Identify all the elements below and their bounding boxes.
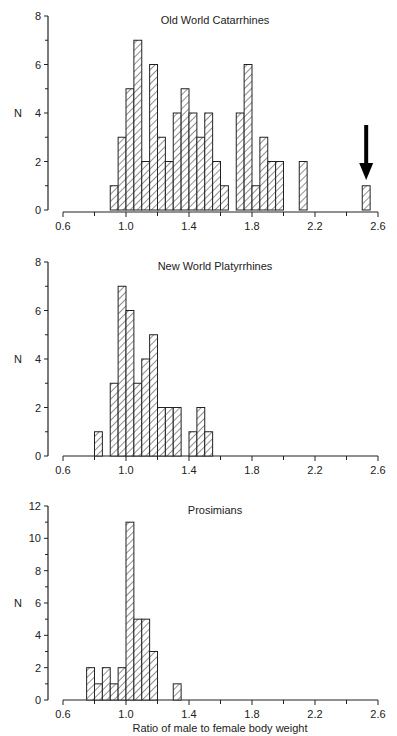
histogram-bar xyxy=(110,186,118,210)
histogram-bar xyxy=(110,684,118,700)
histogram-bar xyxy=(134,619,142,700)
histogram-bar xyxy=(158,137,166,210)
histogram-bar xyxy=(165,162,173,211)
y-tick-label: 4 xyxy=(35,107,41,119)
histogram-bar xyxy=(150,335,158,456)
histogram-bar xyxy=(197,137,205,210)
histogram-bar xyxy=(126,522,134,700)
histogram-bar xyxy=(205,432,213,456)
y-tick-label: 0 xyxy=(35,450,41,462)
x-tick-label: 1.0 xyxy=(118,708,133,720)
y-tick-label: 2 xyxy=(35,402,41,414)
histogram-panel: 02468N0.61.01.41.82.22.6New World Platyr… xyxy=(14,256,386,476)
histogram-bar xyxy=(150,65,158,211)
histogram-bar xyxy=(95,432,103,456)
x-tick-label: 0.6 xyxy=(55,464,70,476)
y-axis-label: N xyxy=(14,597,22,609)
y-axis-label: N xyxy=(14,107,22,119)
panel-title: Prosimians xyxy=(188,504,243,516)
y-tick-label: 0 xyxy=(35,694,41,706)
x-tick-label: 1.0 xyxy=(118,464,133,476)
y-tick-label: 0 xyxy=(35,204,41,216)
y-tick-label: 4 xyxy=(35,629,41,641)
histogram-bar xyxy=(236,113,244,210)
y-axis-label: N xyxy=(14,353,22,365)
x-tick-label: 1.4 xyxy=(181,464,196,476)
histogram-bar xyxy=(165,408,173,457)
histogram-bar xyxy=(299,162,307,211)
y-tick-label: 4 xyxy=(35,353,41,365)
histogram-bar xyxy=(268,162,276,211)
panel-title: Old World Catarrhines xyxy=(161,14,270,26)
histogram-bar xyxy=(197,408,205,457)
histogram-bar xyxy=(260,137,268,210)
histogram-bar xyxy=(118,668,126,700)
histogram-bar xyxy=(189,113,197,210)
x-tick-label: 1.4 xyxy=(181,220,196,232)
histogram-bar xyxy=(126,89,134,210)
y-tick-label: 2 xyxy=(35,662,41,674)
histogram-bar xyxy=(118,286,126,456)
x-tick-label: 1.8 xyxy=(244,464,259,476)
histogram-bar xyxy=(102,668,110,700)
x-axis-label: Ratio of male to female body weight xyxy=(133,722,308,734)
histogram-bar xyxy=(118,137,126,210)
arrow-head-icon xyxy=(359,163,373,180)
y-tick-label: 8 xyxy=(35,256,41,268)
histogram-bar xyxy=(189,432,197,456)
y-tick-label: 6 xyxy=(35,59,41,71)
histogram-bar xyxy=(126,311,134,457)
x-tick-label: 1.4 xyxy=(181,708,196,720)
histogram-figure: 02468N0.61.01.41.82.22.6Old World Catarr… xyxy=(0,0,397,736)
histogram-panel: 02468N0.61.01.41.82.22.6Old World Catarr… xyxy=(14,10,386,232)
histogram-bar xyxy=(213,162,221,211)
x-tick-label: 1.0 xyxy=(118,220,133,232)
y-tick-label: 6 xyxy=(35,305,41,317)
y-tick-label: 12 xyxy=(29,500,41,512)
histogram-bar xyxy=(173,113,181,210)
x-tick-label: 2.2 xyxy=(307,708,322,720)
x-tick-label: 2.6 xyxy=(370,708,385,720)
histogram-bar xyxy=(134,40,142,210)
histogram-bar xyxy=(134,383,142,456)
histogram-bar xyxy=(142,162,150,211)
histogram-bar xyxy=(142,619,150,700)
histogram-bar xyxy=(221,186,229,210)
x-tick-label: 2.2 xyxy=(307,464,322,476)
histogram-panel: 024681012N0.61.01.41.82.22.6ProsimiansRa… xyxy=(14,500,386,734)
y-tick-label: 6 xyxy=(35,597,41,609)
histogram-bar xyxy=(244,65,252,211)
histogram-bar xyxy=(142,359,150,456)
x-tick-label: 1.8 xyxy=(244,220,259,232)
x-tick-label: 1.8 xyxy=(244,708,259,720)
histogram-bar xyxy=(87,668,95,700)
histogram-bar xyxy=(173,408,181,457)
x-tick-label: 2.6 xyxy=(370,464,385,476)
histogram-bar xyxy=(276,162,284,211)
histogram-bar xyxy=(205,113,213,210)
histogram-bar xyxy=(173,684,181,700)
x-tick-label: 2.6 xyxy=(370,220,385,232)
y-tick-label: 8 xyxy=(35,10,41,22)
histogram-bar xyxy=(95,684,103,700)
y-tick-label: 10 xyxy=(29,532,41,544)
panel-title: New World Platyrrhines xyxy=(158,260,273,272)
y-tick-label: 8 xyxy=(35,565,41,577)
x-tick-label: 0.6 xyxy=(55,708,70,720)
histogram-bar xyxy=(158,408,166,457)
histogram-bar xyxy=(252,186,260,210)
y-tick-label: 2 xyxy=(35,156,41,168)
histogram-bar xyxy=(110,383,118,456)
histogram-bar xyxy=(362,186,370,210)
x-tick-label: 0.6 xyxy=(55,220,70,232)
histogram-bar xyxy=(150,652,158,701)
histogram-bar xyxy=(181,89,189,210)
x-tick-label: 2.2 xyxy=(307,220,322,232)
